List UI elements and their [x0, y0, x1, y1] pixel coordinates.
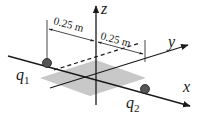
charge-diagram: 0.25 m 0.25 m q1 q2 z y x	[0, 0, 214, 119]
charge-label-q1: q1	[16, 66, 30, 86]
axis-label-y: y	[166, 33, 176, 51]
charge-q1	[43, 59, 52, 68]
xy-plane	[40, 60, 146, 96]
charge-label-q2: q2	[126, 94, 140, 114]
axis-label-x: x	[182, 78, 190, 95]
axis-label-z: z	[100, 0, 108, 17]
charge-q2	[141, 85, 150, 94]
dim-label-right: 0.25 m	[99, 29, 132, 49]
y-axis-line	[140, 45, 188, 60]
